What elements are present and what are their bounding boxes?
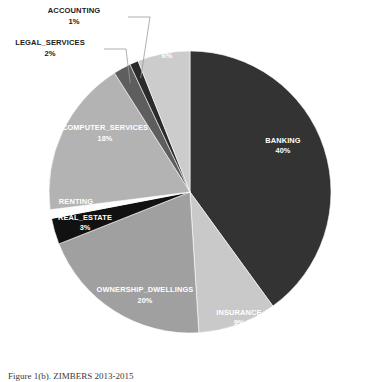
slice-percent-label: 3% (80, 223, 91, 232)
slice-label: INSURANCE (216, 308, 261, 317)
slice-label: ACCOUNTING (48, 6, 100, 15)
slice-percent-label: 18% (98, 134, 113, 143)
slice-label: COMPUTER_SERVICES (62, 123, 148, 132)
slice-percent-label: 2% (44, 49, 55, 58)
figure-caption: Figure 1(b). ZIMBERS 2013-2015 (8, 371, 134, 382)
slice-percent-label: 40% (276, 146, 291, 155)
slice-percent-label: 20% (138, 296, 153, 305)
slice-label: OWNERSHIP_DWELLINGS (97, 285, 194, 294)
slice-label: LEGAL_SERVICES (15, 38, 85, 47)
slice-label: REAL_ESTATE (58, 213, 112, 222)
slice-percent-label: 6% (162, 51, 173, 60)
slice-label: BANKING (265, 136, 301, 145)
slice-percent-label: 9% (234, 318, 245, 327)
slice-percent-label: 1% (68, 17, 79, 26)
slice-label: RENTING (59, 197, 93, 206)
slice-label: R & D (157, 40, 178, 49)
